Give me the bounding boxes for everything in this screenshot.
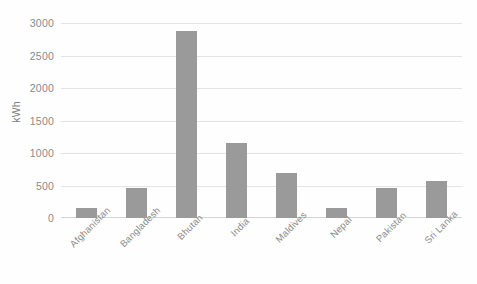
y-axis-tick-labels: 050010001500200025003000 xyxy=(0,0,60,284)
x-label-slot: India xyxy=(211,219,261,284)
bar-slot xyxy=(61,23,111,218)
bar-chart: kWh 050010001500200025003000 Afghanistan… xyxy=(0,0,477,284)
plot-area xyxy=(61,23,462,218)
bar-slot xyxy=(161,23,211,218)
bar-slot xyxy=(412,23,462,218)
bar-bhutan[interactable] xyxy=(176,31,197,218)
y-axis-tick-label: 3000 xyxy=(0,18,54,28)
bar-maldives[interactable] xyxy=(276,173,297,219)
bar-slot xyxy=(262,23,312,218)
x-label-slot: Sri Lanka xyxy=(412,219,462,284)
x-axis-tick-labels: AfghanistanBangladeshBhutanIndiaMaldives… xyxy=(61,219,462,284)
y-axis-tick-label: 2500 xyxy=(0,51,54,61)
x-label-slot: Pakistan xyxy=(362,219,412,284)
bar-india[interactable] xyxy=(226,143,247,218)
y-axis-tick-label: 500 xyxy=(0,181,54,191)
bar-series xyxy=(61,23,462,218)
x-label-slot: Afghanistan xyxy=(61,219,111,284)
y-axis-tick-label: 0 xyxy=(0,213,54,223)
x-label-slot: Maldives xyxy=(262,219,312,284)
x-axis-tick-label: India xyxy=(229,215,252,238)
x-label-slot: Nepal xyxy=(312,219,362,284)
bar-slot xyxy=(312,23,362,218)
bar-sri-lanka[interactable] xyxy=(426,181,447,218)
y-axis-tick-label: 1500 xyxy=(0,116,54,126)
y-axis-tick-label: 2000 xyxy=(0,83,54,93)
y-axis-tick-label: 1000 xyxy=(0,148,54,158)
bar-slot xyxy=(111,23,161,218)
bar-pakistan[interactable] xyxy=(376,188,397,218)
bar-slot xyxy=(211,23,261,218)
bar-slot xyxy=(362,23,412,218)
x-label-slot: Bangladesh xyxy=(111,219,161,284)
x-label-slot: Bhutan xyxy=(161,219,211,284)
